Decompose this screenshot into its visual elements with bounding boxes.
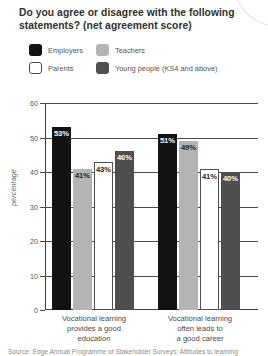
legend-swatch-employers xyxy=(29,44,42,56)
category-label-line: Vocational learning xyxy=(150,314,250,324)
y-tick-10 xyxy=(40,276,45,277)
y-tick-label-20: 20 xyxy=(30,237,38,246)
bar-0-1: 41% xyxy=(73,169,92,310)
legend-label-employers: Employers xyxy=(48,46,83,55)
category-label-line: education xyxy=(44,334,144,344)
y-tick-label-0: 0 xyxy=(34,306,38,315)
legend-item-teachers: Teachers xyxy=(96,44,145,56)
x-axis-category-label-1: Vocational learningoften leads toa good … xyxy=(150,314,250,345)
y-tick-label-10: 10 xyxy=(30,271,38,280)
legend-label-young-people: Young people (KS4 and above) xyxy=(115,64,217,73)
category-label-line: provides a good xyxy=(44,324,144,334)
bar-value-label: 49% xyxy=(179,143,198,152)
bar-1-3: 40% xyxy=(221,172,240,310)
y-tick-30 xyxy=(40,207,45,208)
bar-value-label: 43% xyxy=(95,165,112,174)
plot-area: 010203040506053%41%43%46%51%49%41%40% xyxy=(45,103,258,310)
y-tick-20 xyxy=(40,241,45,242)
legend-label-teachers: Teachers xyxy=(115,46,145,55)
chart-legend: Employers Teachers Parents Young people … xyxy=(29,44,261,78)
y-tick-0 xyxy=(40,310,45,311)
y-tick-50 xyxy=(40,138,45,139)
category-label-line: Vocational learning xyxy=(44,314,144,324)
legend-swatch-teachers xyxy=(96,44,109,56)
bar-0-2: 43% xyxy=(94,162,113,310)
x-axis-category-label-0: Vocational learningprovides a goodeducat… xyxy=(44,314,144,345)
legend-swatch-parents xyxy=(29,62,42,74)
category-label-line: a good career xyxy=(150,334,250,344)
bar-value-label: 40% xyxy=(221,174,240,183)
chart-title: Do you agree or disagree with the follow… xyxy=(19,6,251,32)
legend-swatch-young-people xyxy=(96,62,109,74)
chart-page: Do you agree or disagree with the follow… xyxy=(0,0,268,356)
legend-item-employers: Employers xyxy=(29,44,83,56)
legend-item-young-people: Young people (KS4 and above) xyxy=(96,62,217,74)
category-label-line: often leads to xyxy=(150,324,250,334)
bar-value-label: 41% xyxy=(73,171,92,180)
y-tick-label-60: 60 xyxy=(30,99,38,108)
bar-1-0: 51% xyxy=(158,134,177,310)
bar-value-label: 46% xyxy=(115,153,134,162)
bar-0-3: 46% xyxy=(115,151,134,310)
y-tick-40 xyxy=(40,172,45,173)
bar-1-2: 41% xyxy=(200,169,219,310)
gridline-60 xyxy=(45,103,258,104)
bar-value-label: 41% xyxy=(201,172,218,181)
legend-label-parents: Parents xyxy=(48,64,73,73)
y-tick-label-30: 30 xyxy=(30,202,38,211)
bar-value-label: 51% xyxy=(158,136,177,145)
bar-0-0: 53% xyxy=(52,127,71,310)
gridline-50 xyxy=(45,138,258,139)
legend-item-parents: Parents xyxy=(29,62,73,74)
bar-value-label: 53% xyxy=(52,129,71,138)
bar-1-1: 49% xyxy=(179,141,198,310)
y-tick-label-40: 40 xyxy=(30,168,38,177)
y-tick-label-50: 50 xyxy=(30,133,38,142)
source-caption: Source: Edge Annual Programme of Stakeho… xyxy=(8,348,266,356)
y-axis-title: percentage xyxy=(9,169,18,206)
y-tick-60 xyxy=(40,103,45,104)
